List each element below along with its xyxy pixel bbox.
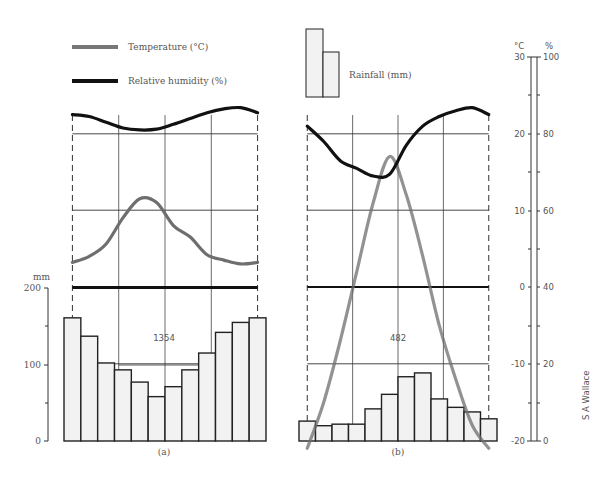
rainfall-bar bbox=[415, 373, 432, 441]
rainfall-bar bbox=[349, 424, 366, 441]
temp-tick-20: 20 bbox=[514, 129, 525, 139]
rainfall-tick-0: 0 bbox=[35, 436, 41, 446]
rainfall-bar bbox=[131, 382, 148, 441]
rainfall-bar bbox=[448, 407, 465, 441]
hum-tick-20: 20 bbox=[543, 359, 554, 369]
hum-tick-40: 40 bbox=[543, 282, 554, 292]
legend: Temperature (°C) Relative humidity (%) R… bbox=[72, 29, 411, 97]
legend-rainfall-bar-2 bbox=[323, 52, 339, 97]
temp-tick-minus20: -20 bbox=[511, 436, 525, 446]
rainfall-tick-100: 100 bbox=[24, 360, 41, 370]
rainfall-bar bbox=[115, 370, 132, 441]
panel-a bbox=[64, 107, 266, 441]
rainfall-axis: mm 200 100 0 bbox=[24, 272, 51, 446]
legend-temperature-label: Temperature (°C) bbox=[128, 42, 208, 52]
temp-tick-0: 0 bbox=[520, 282, 525, 292]
hum-tick-100: 100 bbox=[543, 52, 559, 62]
rainfall-bar bbox=[182, 370, 199, 441]
panel-b-label: (b) bbox=[392, 447, 405, 457]
rainfall-bar bbox=[249, 318, 266, 441]
temp-tick-30: 30 bbox=[514, 52, 525, 62]
panel-b bbox=[299, 108, 497, 449]
rainfall-bar bbox=[316, 426, 333, 441]
rainfall-axis-unit: mm bbox=[33, 272, 51, 282]
climate-chart: Temperature (°C) Relative humidity (%) R… bbox=[0, 0, 597, 482]
rainfall-bar bbox=[98, 363, 115, 441]
rainfall-bar bbox=[332, 424, 349, 441]
rainfall-bar bbox=[365, 409, 382, 441]
rainfall-bar bbox=[81, 336, 98, 441]
hum-tick-80: 80 bbox=[543, 129, 554, 139]
rainfall-bar bbox=[165, 387, 182, 441]
rainfall-bar bbox=[431, 399, 448, 441]
rainfall-bar bbox=[481, 419, 498, 441]
legend-rainfall-label: Rainfall (mm) bbox=[349, 70, 411, 80]
hum-axis-unit: % bbox=[545, 41, 553, 51]
temp-axis-unit: °C bbox=[514, 41, 524, 51]
credit: S A Wallace bbox=[581, 370, 591, 420]
rainfall-bar bbox=[216, 332, 233, 441]
rainfall-bar bbox=[382, 394, 399, 441]
legend-humidity-label: Relative humidity (%) bbox=[128, 76, 227, 86]
rainfall-bar bbox=[199, 353, 216, 441]
hum-tick-60: 60 bbox=[543, 206, 554, 216]
temp-tick-minus10: -10 bbox=[511, 359, 525, 369]
panel-a-total: 1354 bbox=[153, 333, 175, 343]
rainfall-bar bbox=[148, 397, 165, 441]
rainfall-bar bbox=[232, 322, 249, 441]
legend-rainfall-bar-1 bbox=[306, 29, 323, 97]
panel-a-label: (a) bbox=[158, 447, 170, 457]
hum-tick-0: 0 bbox=[543, 436, 548, 446]
rainfall-bar bbox=[64, 318, 81, 441]
rainfall-bar bbox=[398, 377, 415, 441]
rainfall-tick-200: 200 bbox=[24, 283, 41, 293]
panel-b-total: 482 bbox=[390, 333, 406, 343]
temp-tick-10: 10 bbox=[514, 206, 525, 216]
right-axes: °C % 30 20 10 0 -10 -20 100 80 60 40 20 … bbox=[511, 41, 559, 446]
